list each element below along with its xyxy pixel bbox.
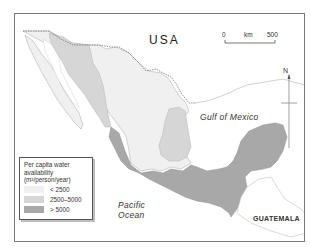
north-label: N bbox=[283, 67, 288, 74]
pacific-ocean-label: Pacific Ocean bbox=[118, 200, 145, 220]
legend-title-line3: (m³/person/year) bbox=[24, 176, 88, 184]
legend-item-high: > 5000 bbox=[24, 206, 88, 214]
legend-item-medium: 2500–5000 bbox=[24, 196, 88, 204]
guatemala-label: GUATEMALA bbox=[253, 215, 300, 222]
scale-end-label: 500 bbox=[267, 31, 278, 38]
scale-start-label: 0 bbox=[222, 31, 226, 38]
legend-title-line2: availability bbox=[24, 169, 88, 177]
legend-swatch-medium bbox=[24, 196, 44, 203]
legend-label-high: > 5000 bbox=[50, 206, 69, 213]
north-arrow-icon bbox=[288, 74, 291, 79]
scale-unit-label: km bbox=[244, 31, 253, 38]
us-gulf-coast bbox=[195, 79, 305, 103]
legend-label-medium: 2500–5000 bbox=[50, 196, 82, 203]
legend-title-line1: Per capita water bbox=[24, 161, 88, 169]
pacific-ocean-line1: Pacific bbox=[118, 200, 145, 210]
guatemala-land bbox=[237, 177, 305, 237]
legend-label-low: < 2500 bbox=[50, 186, 69, 193]
legend-swatch-low bbox=[24, 186, 44, 193]
legend-item-low: < 2500 bbox=[24, 186, 88, 194]
legend-swatch-high bbox=[24, 206, 44, 213]
pacific-ocean-line2: Ocean bbox=[118, 210, 145, 220]
gulf-of-mexico-label: Gulf of Mexico bbox=[200, 112, 259, 122]
map-legend: Per capita water availability (m³/person… bbox=[19, 157, 93, 220]
usa-label: USA bbox=[149, 33, 180, 47]
